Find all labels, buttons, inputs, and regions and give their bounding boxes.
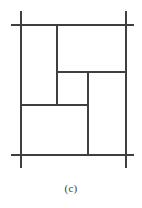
- figure-caption: (c): [0, 181, 142, 195]
- figure-container: (c): [0, 0, 142, 208]
- rectangle-partition-diagram: [0, 0, 142, 208]
